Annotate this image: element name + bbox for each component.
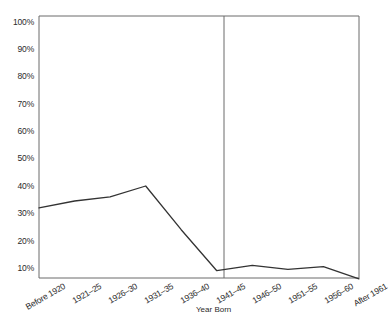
- x-axis-title: Year Born: [196, 305, 231, 314]
- data-series-line: [39, 186, 359, 279]
